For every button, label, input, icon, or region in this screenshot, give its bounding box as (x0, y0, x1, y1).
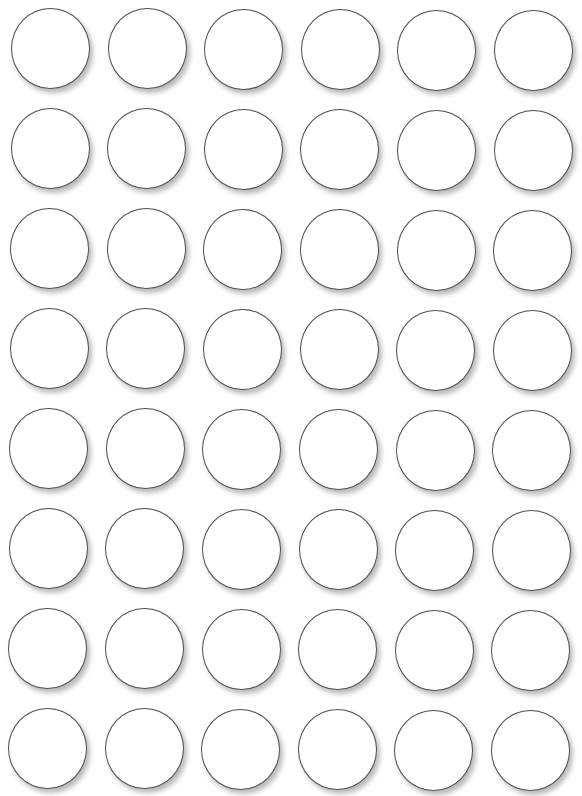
circle-label-r8-c4 (298, 709, 377, 790)
circle-label-r6-c4 (299, 509, 378, 590)
circle-label-r1-c2 (108, 8, 187, 89)
circle-label-r4-c5 (396, 310, 475, 391)
circle-label-r7-c1 (8, 608, 87, 689)
circle-label-r6-c3 (202, 509, 281, 590)
circle-label-r5-c1 (9, 408, 88, 489)
circle-label-r3-c1 (10, 208, 89, 289)
circle-label-r4-c2 (106, 308, 185, 389)
circle-label-r2-c3 (204, 109, 283, 190)
circle-label-r1-c1 (11, 8, 90, 89)
circle-label-r2-c5 (397, 110, 476, 191)
circle-label-r2-c6 (494, 110, 573, 191)
circle-label-r5-c2 (106, 408, 185, 489)
circle-label-r5-c3 (202, 409, 281, 490)
circle-label-r6-c2 (105, 508, 184, 589)
circle-label-r3-c3 (203, 209, 282, 290)
circle-label-r3-c4 (300, 209, 379, 290)
circle-label-r8-c1 (8, 708, 87, 789)
circle-label-r7-c4 (298, 609, 377, 690)
circle-label-r5-c5 (396, 410, 475, 491)
circle-label-r8-c3 (201, 709, 280, 790)
circle-label-r8-c6 (491, 710, 570, 791)
circle-label-r8-c5 (394, 710, 473, 791)
circle-label-r8-c2 (105, 708, 184, 789)
circle-label-r5-c6 (492, 410, 571, 491)
circle-label-r3-c2 (107, 208, 186, 289)
circle-label-r6-c5 (395, 510, 474, 591)
circle-label-r6-c1 (9, 508, 88, 589)
circle-label-r5-c4 (299, 409, 378, 490)
circle-label-r2-c2 (107, 108, 186, 189)
circle-label-r4-c4 (300, 309, 379, 390)
circle-label-r7-c5 (395, 610, 474, 691)
circle-label-r7-c6 (491, 610, 570, 691)
circle-label-r1-c4 (301, 9, 380, 90)
circle-label-r2-c1 (11, 108, 90, 189)
circle-label-r7-c2 (105, 608, 184, 689)
circle-label-r4-c1 (10, 308, 89, 389)
circle-label-r3-c6 (493, 210, 572, 291)
circle-label-r1-c5 (397, 10, 476, 91)
circle-label-r2-c4 (300, 109, 379, 190)
circle-label-r4-c3 (203, 309, 282, 390)
circle-label-r7-c3 (202, 609, 281, 690)
circle-label-r1-c3 (204, 9, 283, 90)
circle-label-r1-c6 (494, 10, 573, 91)
circle-label-r6-c6 (492, 510, 571, 591)
circle-label-r4-c6 (493, 310, 572, 391)
circle-label-r3-c5 (397, 210, 476, 291)
circle-label-sheet (0, 0, 582, 796)
